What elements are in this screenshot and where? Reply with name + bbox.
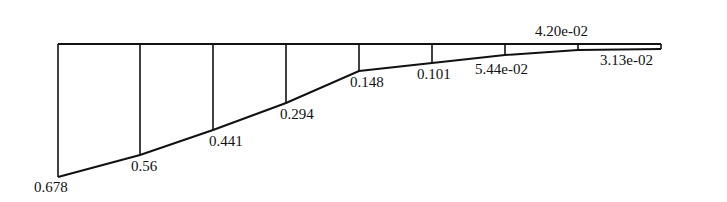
value-label: 0.441	[209, 134, 243, 149]
value-label: 5.44e-02	[475, 62, 528, 77]
value-label: 0.678	[34, 180, 68, 195]
value-label: 0.294	[280, 107, 314, 122]
value-label: 4.20e-02	[535, 24, 588, 39]
distribution-diagram	[0, 0, 727, 202]
value-label: 3.13e-02	[600, 53, 653, 68]
value-label: 0.148	[350, 75, 384, 90]
value-label: 0.101	[417, 67, 451, 82]
value-label: 0.56	[131, 159, 157, 174]
